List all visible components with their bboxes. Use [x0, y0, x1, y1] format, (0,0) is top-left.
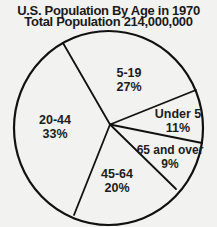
slice-percent: 9% [135, 157, 205, 171]
slice-label: 45-64 [92, 167, 142, 181]
slice-label: 5-19 [104, 66, 154, 80]
slice-percent: 11% [148, 121, 208, 135]
pie-chart: U.S. Population By Age in 1970 Total Pop… [0, 0, 217, 227]
slice-percent: 20% [92, 181, 142, 195]
slice-percent: 27% [104, 80, 154, 94]
slice-label: 20-44 [30, 113, 80, 127]
slice-label: Under 5 [148, 107, 208, 121]
slice-under-5: Under 5 11% [148, 107, 208, 135]
slice-20-44: 20-44 33% [30, 113, 80, 141]
slice-5-19: 5-19 27% [104, 66, 154, 94]
slice-label: 65 and over [135, 143, 205, 157]
slice-65-and-over: 65 and over 9% [135, 143, 205, 171]
slice-percent: 33% [30, 127, 80, 141]
slice-45-64: 45-64 20% [92, 167, 142, 195]
